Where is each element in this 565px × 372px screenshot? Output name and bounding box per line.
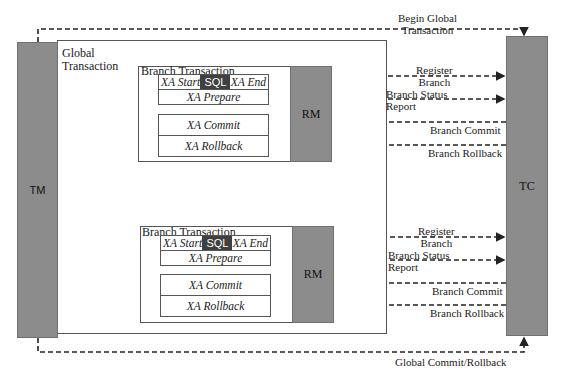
tm-node: TM [17, 42, 58, 338]
register-branch-label-2: Register Branch [418, 225, 455, 249]
register-line2: Branch [418, 237, 455, 249]
xa-start-label: XA Start [161, 76, 200, 88]
rm-node-2: RM [292, 226, 334, 323]
global-commit-arrow [38, 338, 524, 352]
xa-prepare-cell-2: XA Prepare [160, 250, 271, 266]
xa-prepare-label: XA Prepare [187, 91, 241, 103]
xa-commit-label: XA Commit [189, 279, 242, 291]
register-branch-label-1: Register Branch [416, 64, 453, 88]
xa-prepare-label: XA Prepare [189, 252, 243, 264]
status-line2: Report [388, 261, 449, 273]
xa-start-row-2: XA Start SQL XA End [160, 235, 271, 251]
branch-commit-label-1: Branch Commit [430, 124, 501, 136]
xa-end-label: XA End [233, 237, 268, 249]
xa-start-row-1: XA Start SQL XA End [158, 74, 269, 90]
status-line2: Report [386, 100, 447, 112]
global-label-line2: Transaction [62, 60, 118, 73]
status-line1: Branch Status [386, 88, 447, 100]
begin-global-label: Begin Global Transaction [398, 12, 457, 36]
xa-commit-cell-1: XA Commit [158, 114, 269, 136]
xa-prepare-cell-1: XA Prepare [158, 89, 269, 105]
xa-rollback-label: XA Rollback [185, 140, 243, 152]
xa-commit-cell-2: XA Commit [160, 274, 271, 296]
register-line2: Branch [416, 76, 453, 88]
branch-commit-label-2: Branch Commit [432, 285, 503, 297]
rm-label-1: RM [302, 107, 321, 122]
xa-end-label: XA End [231, 76, 266, 88]
xa-start-label: XA Start [163, 237, 202, 249]
global-transaction-label: Global Transaction [62, 47, 118, 73]
branch-rollback-label-2: Branch Rollback [430, 307, 504, 319]
branch-status-label-1: Branch Status Report [386, 88, 447, 112]
register-line1: Register [416, 64, 453, 76]
xa-rollback-label: XA Rollback [187, 300, 245, 312]
global-commit-rollback-label: Global Commit/Rollback [395, 356, 507, 368]
begin-global-line1: Begin Global [398, 12, 457, 24]
branch-rollback-label-1: Branch Rollback [428, 147, 502, 159]
xa-rollback-cell-2: XA Rollback [160, 295, 271, 317]
xa-commit-label: XA Commit [187, 119, 240, 131]
sql-badge: SQL [200, 75, 230, 89]
branch-status-label-2: Branch Status Report [388, 249, 449, 273]
status-line1: Branch Status [388, 249, 449, 261]
xa-rollback-cell-1: XA Rollback [158, 135, 269, 157]
rm-label-2: RM [304, 267, 323, 282]
begin-global-line2: Transaction [398, 24, 457, 36]
tc-label: TC [519, 179, 534, 194]
register-line1: Register [418, 225, 455, 237]
tm-label: TM [30, 184, 46, 196]
rm-node-1: RM [290, 66, 332, 162]
tc-node: TC [506, 36, 548, 336]
sql-badge: SQL [202, 236, 232, 250]
